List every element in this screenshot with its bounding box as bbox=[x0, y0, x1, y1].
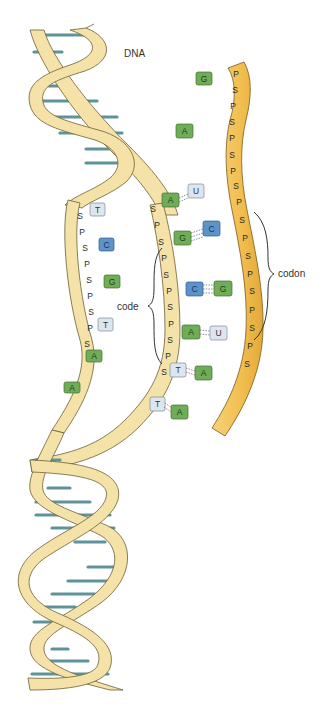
svg-text:T: T bbox=[155, 399, 160, 409]
svg-text:P: P bbox=[229, 133, 235, 143]
svg-text:A: A bbox=[182, 126, 188, 136]
code-label: code bbox=[117, 301, 139, 312]
svg-text:S: S bbox=[229, 150, 235, 160]
svg-text:P: P bbox=[230, 101, 236, 111]
svg-text:S: S bbox=[245, 251, 251, 261]
svg-text:S: S bbox=[167, 335, 173, 345]
svg-text:S: S bbox=[150, 204, 156, 214]
svg-text:G: G bbox=[179, 233, 186, 243]
dna-helix-top bbox=[29, 24, 178, 215]
svg-text:S: S bbox=[86, 275, 92, 285]
svg-text:S: S bbox=[77, 211, 83, 221]
svg-text:S: S bbox=[84, 339, 90, 349]
svg-text:S: S bbox=[233, 181, 239, 191]
coding-base-T-2: T bbox=[98, 318, 113, 331]
svg-text:P: P bbox=[84, 259, 90, 269]
svg-text:S: S bbox=[229, 117, 235, 127]
svg-text:A: A bbox=[201, 368, 207, 378]
svg-text:P: P bbox=[79, 227, 85, 237]
svg-text:C: C bbox=[208, 224, 214, 234]
svg-text:G: G bbox=[220, 284, 227, 294]
pair-T-A-2: T A bbox=[150, 397, 188, 419]
coding-base-A-2: A bbox=[64, 382, 80, 393]
svg-text:P: P bbox=[230, 166, 236, 176]
dna-transcription-diagram: DNA S P S P S P S P S T C G T bbox=[0, 0, 321, 707]
svg-text:P: P bbox=[165, 351, 171, 361]
svg-text:T: T bbox=[95, 205, 100, 215]
svg-text:S: S bbox=[232, 85, 238, 95]
coding-base-C: C bbox=[99, 238, 114, 251]
svg-text:A: A bbox=[177, 407, 183, 417]
svg-text:S: S bbox=[82, 243, 88, 253]
svg-text:P: P bbox=[236, 197, 242, 207]
svg-text:T: T bbox=[103, 320, 108, 330]
svg-text:P: P bbox=[87, 291, 93, 301]
coding-base-A-1: A bbox=[86, 350, 102, 362]
svg-text:P: P bbox=[166, 286, 172, 296]
mrna-backbone bbox=[212, 62, 263, 436]
svg-text:S: S bbox=[161, 367, 167, 377]
svg-text:C: C bbox=[103, 240, 109, 250]
svg-text:S: S bbox=[167, 302, 173, 312]
code-bracket bbox=[148, 248, 162, 364]
svg-text:P: P bbox=[247, 341, 253, 351]
svg-text:A: A bbox=[69, 383, 75, 393]
svg-text:P: P bbox=[233, 69, 239, 79]
dna-label: DNA bbox=[124, 48, 145, 59]
mrna-base-G-top: G bbox=[196, 72, 212, 85]
svg-text:P: P bbox=[249, 305, 255, 315]
svg-text:S: S bbox=[239, 215, 245, 225]
svg-text:U: U bbox=[193, 186, 199, 196]
svg-text:A: A bbox=[168, 195, 174, 205]
svg-text:S: S bbox=[163, 270, 169, 280]
mrna-base-A-top: A bbox=[176, 124, 193, 138]
pair-C-G: C G bbox=[186, 281, 232, 296]
svg-text:S: S bbox=[249, 286, 255, 296]
svg-text:P: P bbox=[87, 323, 93, 333]
mrna-strand: P S P S P S P S P S P S P S P S P S bbox=[212, 62, 263, 436]
svg-text:P: P bbox=[168, 319, 174, 329]
svg-text:S: S bbox=[158, 237, 164, 247]
pair-T-A-1: T A bbox=[170, 363, 212, 380]
svg-text:G: G bbox=[109, 277, 116, 287]
codon-label: codon bbox=[278, 268, 305, 279]
dna-helix-bottom bbox=[18, 430, 127, 690]
pair-A-U-2: A U bbox=[182, 325, 227, 340]
pair-G-C: G C bbox=[174, 221, 220, 245]
coding-base-G: G bbox=[104, 275, 120, 288]
svg-text:C: C bbox=[191, 284, 197, 294]
svg-text:S: S bbox=[249, 323, 255, 333]
svg-text:S: S bbox=[88, 307, 94, 317]
svg-text:G: G bbox=[201, 74, 208, 84]
svg-text:S: S bbox=[244, 359, 250, 369]
svg-text:P: P bbox=[247, 269, 253, 279]
coding-base-T-1: T bbox=[90, 203, 105, 216]
coding-strand: S P S P S P S P S T C G T A bbox=[52, 200, 120, 433]
svg-text:T: T bbox=[175, 365, 180, 375]
svg-text:P: P bbox=[154, 220, 160, 230]
pair-A-U-1: A U bbox=[162, 184, 204, 207]
svg-text:A: A bbox=[188, 327, 194, 337]
svg-text:P: P bbox=[161, 253, 167, 263]
svg-text:U: U bbox=[215, 328, 221, 338]
svg-text:P: P bbox=[242, 233, 248, 243]
svg-text:A: A bbox=[91, 351, 97, 361]
